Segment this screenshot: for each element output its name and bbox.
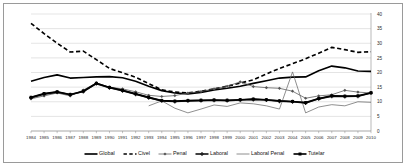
data-point — [82, 90, 85, 93]
x-axis-tick-labels: 1984198519861987198819891990199119921993… — [26, 131, 376, 140]
data-point — [239, 98, 242, 101]
y-tick-label: 30 — [377, 41, 383, 46]
data-point — [160, 99, 163, 102]
data-point — [108, 86, 111, 89]
chart-legend: GlobalCivelPenalLaboralLaboral PenalTute… — [85, 150, 325, 156]
y-tick-label: 35 — [377, 26, 383, 31]
data-point — [160, 95, 163, 98]
gridlines — [31, 13, 371, 131]
data-point — [304, 97, 307, 100]
chart-frame: 0510152025303540 19841985198619871988198… — [3, 3, 403, 163]
series-global — [31, 66, 371, 94]
x-tick-label: 1998 — [209, 135, 219, 140]
data-point — [173, 100, 176, 103]
data-point — [343, 89, 346, 92]
x-tick-label: 1984 — [26, 135, 36, 140]
legend-item-tutelar[interactable]: Tutelar — [294, 150, 325, 156]
legend-label: Global — [99, 150, 115, 156]
legend-marker — [299, 153, 302, 156]
y-tick-label: 10 — [377, 99, 383, 104]
y-axis-tick-labels: 0510152025303540 — [377, 12, 383, 134]
x-tick-label: 1992 — [131, 135, 141, 140]
data-point — [278, 99, 281, 102]
series-line — [31, 23, 371, 93]
legend-item-global[interactable]: Global — [85, 150, 115, 156]
data-point — [299, 153, 302, 156]
data-point — [370, 91, 373, 94]
x-tick-label: 2004 — [288, 135, 298, 140]
x-tick-label: 2001 — [248, 135, 258, 140]
series-line — [31, 66, 371, 94]
legend-label: Civel — [138, 150, 150, 156]
x-tick-label: 1989 — [91, 135, 101, 140]
data-point — [291, 90, 294, 93]
data-point — [69, 93, 72, 96]
x-tick-label: 1988 — [78, 135, 88, 140]
x-tick-label: 2000 — [235, 135, 245, 140]
chart-canvas: 0510152025303540 19841985198619871988198… — [4, 4, 404, 164]
x-tick-label: 1999 — [222, 135, 232, 140]
data-point — [226, 99, 229, 102]
x-tick-label: 1994 — [157, 135, 167, 140]
data-point — [147, 96, 150, 99]
legend-label: Penal — [173, 150, 187, 156]
data-point — [43, 92, 46, 95]
legend-item-laboral[interactable]: Laboral — [196, 150, 228, 156]
x-tick-label: 2003 — [275, 135, 285, 140]
x-tick-label: 2005 — [301, 135, 311, 140]
legend-item-penal[interactable]: Penal — [159, 150, 187, 156]
data-point — [252, 98, 255, 101]
data-point — [200, 152, 204, 156]
data-point — [291, 100, 294, 103]
data-point — [265, 86, 268, 89]
y-tick-label: 5 — [377, 114, 380, 119]
legend-marker — [200, 152, 204, 156]
data-point — [252, 85, 255, 88]
legend-label: Laboral Penal — [251, 150, 284, 156]
x-tick-label: 1985 — [39, 135, 49, 140]
x-tick-label: 1990 — [105, 135, 115, 140]
x-tick-label: 1995 — [170, 135, 180, 140]
x-tick-label: 2010 — [366, 135, 376, 140]
x-tick-label: 1987 — [65, 135, 75, 140]
legend-item-laboral-penal[interactable]: Laboral Penal — [237, 150, 285, 156]
data-point — [200, 99, 203, 102]
y-tick-label: 15 — [377, 85, 383, 90]
line-chart: 0510152025303540 19841985198619871988198… — [4, 4, 404, 164]
data-point — [173, 94, 176, 97]
x-tick-label: 2006 — [314, 135, 324, 140]
x-tick-label: 1993 — [144, 135, 154, 140]
data-point — [186, 99, 189, 102]
x-tick-label: 2008 — [340, 135, 350, 140]
data-point — [134, 92, 137, 95]
data-point — [330, 94, 333, 97]
data-point — [317, 97, 320, 100]
y-tick-label: 25 — [377, 56, 383, 61]
x-tick-label: 1997 — [196, 135, 206, 140]
series-civel — [31, 23, 371, 93]
data-point — [343, 95, 346, 98]
x-tick-label: 1991 — [118, 135, 128, 140]
data-point — [356, 94, 359, 97]
data-point — [304, 101, 307, 104]
y-tick-label: 20 — [377, 70, 383, 75]
y-tick-label: 0 — [377, 129, 380, 134]
legend-marker — [163, 152, 166, 155]
legend-label: Laboral — [210, 150, 228, 156]
x-tick-label: 2009 — [353, 135, 363, 140]
data-point — [56, 90, 59, 93]
legend-item-civel[interactable]: Civel — [124, 150, 150, 156]
x-tick-label: 2002 — [261, 135, 271, 140]
x-tick-label: 1986 — [52, 135, 62, 140]
x-tick-label: 1996 — [183, 135, 193, 140]
y-tick-label: 40 — [377, 12, 383, 17]
legend-label: Tutelar — [308, 150, 325, 156]
data-point — [95, 82, 98, 85]
data-point — [163, 152, 166, 155]
data-point — [213, 98, 216, 101]
data-point — [30, 96, 33, 99]
data-series-layer — [29, 23, 373, 113]
x-tick-label: 2007 — [327, 135, 337, 140]
data-point — [121, 89, 124, 92]
data-point — [265, 98, 268, 101]
